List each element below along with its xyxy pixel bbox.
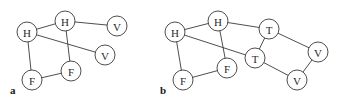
graph-diagram: HHVVFFa HHTTVVFFb xyxy=(0,0,339,98)
edge-h1-t2 xyxy=(175,32,255,58)
node-f1: F xyxy=(22,70,42,90)
node-label: F xyxy=(180,75,186,87)
panel-b: HHTTVVFFb xyxy=(160,11,328,96)
node-v2: V xyxy=(287,70,307,90)
node-label: V xyxy=(101,50,109,62)
node-t1: T xyxy=(259,19,279,39)
node-label: H xyxy=(214,16,222,28)
node-h1: H xyxy=(17,22,37,42)
node-label: T xyxy=(266,24,273,36)
node-label: V xyxy=(113,21,121,33)
node-label: V xyxy=(293,75,301,87)
node-h1: H xyxy=(165,22,185,42)
node-label: H xyxy=(171,27,179,39)
node-label: F xyxy=(68,66,74,78)
node-v1: V xyxy=(107,16,127,36)
panel-label: a xyxy=(10,84,16,96)
node-label: T xyxy=(252,53,259,65)
node-v1: V xyxy=(308,42,328,62)
node-h2: H xyxy=(208,11,228,31)
edge-h1-v2 xyxy=(27,32,105,55)
node-label: H xyxy=(23,27,31,39)
node-t2: T xyxy=(245,48,265,68)
panel-label: b xyxy=(160,84,166,96)
panel-a: HHVVFFa xyxy=(10,11,127,96)
node-v2: V xyxy=(95,45,115,65)
node-label: F xyxy=(29,75,35,87)
node-label: H xyxy=(61,16,69,28)
node-f2: F xyxy=(217,58,237,78)
node-label: F xyxy=(224,63,230,75)
node-f2: F xyxy=(61,61,81,81)
node-h2: H xyxy=(55,11,75,31)
node-f1: F xyxy=(173,70,193,90)
node-label: V xyxy=(314,47,322,59)
